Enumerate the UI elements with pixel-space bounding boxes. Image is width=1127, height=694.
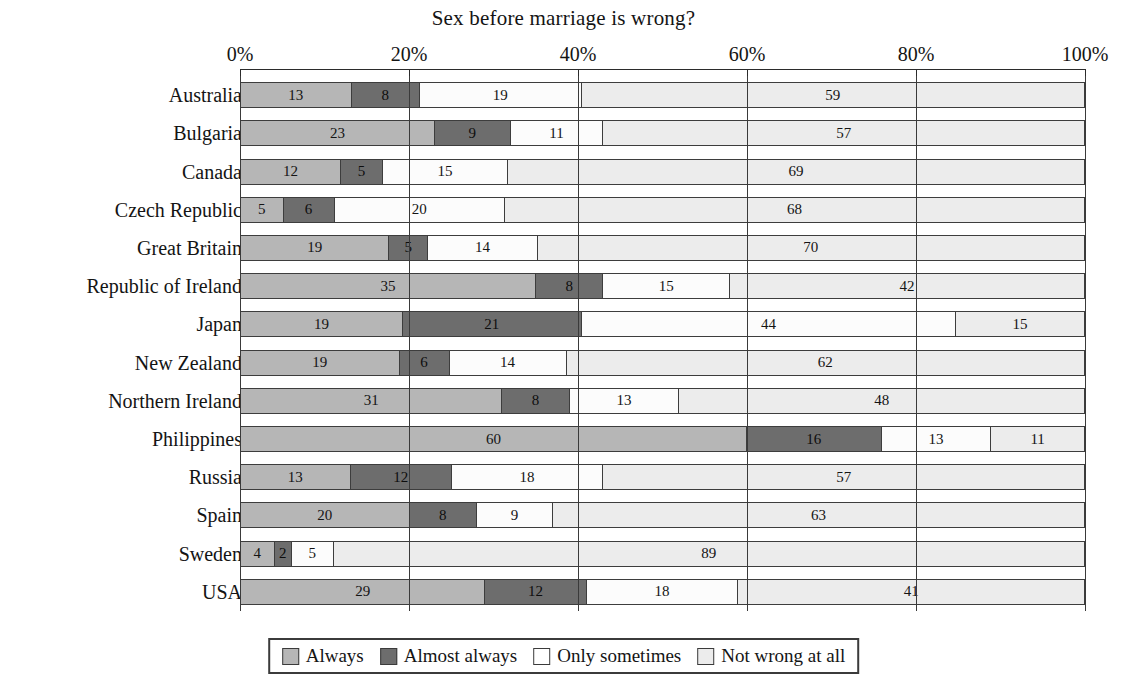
- bar-segment: 14: [450, 351, 567, 375]
- stacked-bar: 2391157: [240, 120, 1085, 146]
- bar-segment-value: 20: [412, 202, 427, 217]
- x-axis-tick-label: 0%: [227, 43, 254, 66]
- legend-swatch-icon: [282, 648, 299, 665]
- stacked-bar: 562068: [240, 197, 1085, 223]
- stacked-bar: 42589: [240, 541, 1085, 567]
- stacked-bar: 60161311: [240, 426, 1085, 452]
- chart-row: Sweden42589: [0, 535, 1127, 573]
- bar-segment: 41: [738, 580, 1084, 604]
- y-axis-category-label: Bulgaria: [173, 122, 242, 145]
- y-axis-category-label: Republic of Ireland: [87, 275, 243, 298]
- bar-segment-value: 8: [381, 88, 389, 103]
- bar-segment: 60: [241, 427, 747, 451]
- x-axis-tick-mark: [409, 69, 410, 76]
- bar-segment: 9: [477, 503, 553, 527]
- bar-segment-value: 21: [484, 317, 499, 332]
- bar-segment-value: 14: [475, 240, 490, 255]
- legend-label: Always: [306, 645, 364, 667]
- bar-segment: 18: [452, 465, 604, 489]
- y-axis-category-label: Spain: [196, 504, 242, 527]
- bar-segment: 63: [553, 503, 1084, 527]
- legend-item[interactable]: Always: [282, 645, 364, 667]
- x-axis-tick-label: 40%: [560, 43, 597, 66]
- chart-row: Russia13121857: [0, 458, 1127, 496]
- bar-segment: 11: [511, 121, 604, 145]
- stacked-bar: 13121857: [240, 464, 1085, 490]
- chart-row: Czech Republic562068: [0, 191, 1127, 229]
- legend-item[interactable]: Not wrong at all: [697, 645, 845, 667]
- bar-segment: 19: [241, 351, 400, 375]
- bar-segment-value: 5: [358, 164, 366, 179]
- y-axis-category-label: Sweden: [179, 542, 242, 565]
- bar-segment-value: 70: [803, 240, 818, 255]
- bar-segment-value: 9: [469, 126, 477, 141]
- bar-segment-value: 89: [701, 546, 716, 561]
- x-axis-tick-labels: 0%20%40%60%80%100%: [240, 43, 1085, 67]
- bar-segment: 13: [241, 465, 351, 489]
- bar-segment-value: 2: [279, 546, 287, 561]
- stacked-bar: 1961462: [240, 350, 1085, 376]
- chart-title: Sex before marriage is wrong?: [0, 6, 1127, 31]
- x-axis-tick-mark: [747, 69, 748, 76]
- bar-segment-value: 19: [307, 240, 322, 255]
- chart-row: Canada1251569: [0, 152, 1127, 190]
- bar-segment: 8: [410, 503, 477, 527]
- bar-segment: 12: [485, 580, 586, 604]
- legend-item[interactable]: Almost always: [380, 645, 517, 667]
- legend-swatch-icon: [697, 648, 714, 665]
- bar-segment-value: 18: [520, 470, 535, 485]
- stacked-bar: 1251569: [240, 159, 1085, 185]
- bar-segment-value: 13: [928, 432, 943, 447]
- bar-segment-value: 57: [836, 470, 851, 485]
- legend-swatch-icon: [533, 648, 550, 665]
- bar-segment-value: 14: [500, 355, 515, 370]
- bar-segment: 59: [582, 83, 1084, 107]
- bar-segment-value: 12: [283, 164, 298, 179]
- chart-row: Bulgaria2391157: [0, 114, 1127, 152]
- bar-segment: 14: [428, 236, 537, 260]
- bar-segment-value: 11: [549, 126, 563, 141]
- legend-label: Not wrong at all: [721, 645, 845, 667]
- bar-segment: 48: [679, 389, 1084, 413]
- bar-segment-value: 15: [1013, 317, 1028, 332]
- bar-segment: 9: [435, 121, 511, 145]
- bar-segment-value: 69: [789, 164, 804, 179]
- legend-item[interactable]: Only sometimes: [533, 645, 681, 667]
- legend-label: Almost always: [404, 645, 517, 667]
- bar-segment: 19: [241, 236, 389, 260]
- bar-segment: 68: [505, 198, 1084, 222]
- gridline: [1085, 76, 1086, 611]
- bar-segment-value: 60: [486, 432, 501, 447]
- bar-segment-value: 57: [836, 126, 851, 141]
- chart-row: Northern Ireland3181348: [0, 382, 1127, 420]
- gridline: [578, 76, 579, 611]
- x-axis-tick-label: 100%: [1062, 43, 1109, 66]
- bar-segment-value: 31: [364, 393, 379, 408]
- y-axis-category-label: Czech Republic: [115, 198, 242, 221]
- bar-segment-value: 15: [659, 279, 674, 294]
- bar-segment: 2: [275, 542, 292, 566]
- bar-segment: 15: [956, 312, 1084, 336]
- bar-segment-value: 19: [312, 355, 327, 370]
- chart-row: Japan19214415: [0, 305, 1127, 343]
- bar-segment: 5: [341, 160, 383, 184]
- bar-segment-value: 48: [874, 393, 889, 408]
- bar-segment-value: 29: [355, 584, 370, 599]
- chart-legend: AlwaysAlmost alwaysOnly sometimesNot wro…: [268, 638, 860, 674]
- y-axis-category-label: USA: [202, 580, 242, 603]
- bar-segment-value: 13: [617, 393, 632, 408]
- bar-segment: 35: [241, 274, 536, 298]
- bar-segment-value: 15: [437, 164, 452, 179]
- y-axis-category-label: Philippines: [152, 428, 242, 451]
- bar-segment: 6: [400, 351, 450, 375]
- bar-segment-value: 16: [806, 432, 821, 447]
- bar-segment: 15: [603, 274, 729, 298]
- gridline: [916, 76, 917, 611]
- chart-row: Australia1381959: [0, 76, 1127, 114]
- bar-segment: 8: [536, 274, 603, 298]
- bar-segment-value: 19: [314, 317, 329, 332]
- bar-segment-value: 18: [654, 584, 669, 599]
- bar-segment-value: 8: [532, 393, 540, 408]
- y-axis-category-label: Great Britain: [137, 236, 242, 259]
- y-axis-category-label: Canada: [182, 160, 242, 183]
